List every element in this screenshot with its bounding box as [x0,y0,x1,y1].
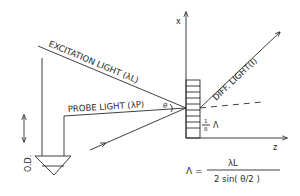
svg-text:Λ: Λ [213,121,219,130]
theta-arc [170,104,172,112]
spacing-annotation: 1 8 Λ [202,118,219,132]
optical-density-detector [35,58,71,175]
x-axis-label: x [176,17,181,26]
svg-text:2 sin( θ/2 ): 2 sin( θ/2 ) [214,174,260,184]
excitation-beam [38,46,186,108]
theta-label: θ [163,102,168,110]
z-axis-label: z [273,143,277,152]
svg-text:1: 1 [204,118,208,124]
svg-text:λL: λL [228,158,238,168]
od-label: O.D. [24,155,33,172]
transmitted-beam [200,102,262,108]
grating-period-equation: Λ = λL 2 sin( θ/2 ) [186,158,280,184]
excitation-label: EXCITATION LIGHT (λL) [47,39,140,86]
diffracted-label: DIFF. LIGHT(I) [210,56,259,103]
incident-ray-lower [90,108,186,150]
grating [186,80,200,138]
probe-beam [64,108,186,156]
grating-diffraction-diagram: x z EXCITATION LIGHT (λL) PROBE LIGHT (λ… [0,0,300,196]
svg-text:8: 8 [204,126,208,132]
svg-text:Λ =: Λ = [186,166,203,176]
